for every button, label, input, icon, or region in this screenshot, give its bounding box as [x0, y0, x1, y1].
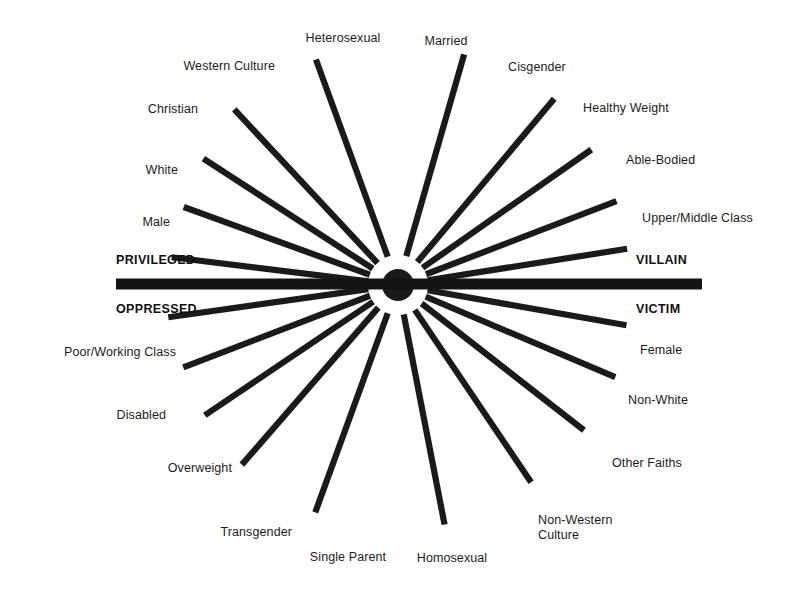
ray-transgender [242, 308, 378, 465]
ray-label-transgender: Transgender [220, 525, 292, 540]
ray-label-western-culture: Western Culture [183, 59, 275, 74]
axis-label-oppressed: OPPRESSED [116, 302, 197, 317]
ray-label-overweight: Overweight [168, 461, 232, 476]
ray-label-heterosexual: Heterosexual [306, 31, 381, 46]
ray-label-white: White [146, 163, 178, 178]
ray-overweight [205, 302, 373, 416]
ray-other-faiths [422, 303, 584, 430]
ray-cisgender [417, 99, 554, 262]
axis-label-victim: VICTIM [636, 302, 680, 317]
ray-label-male: Male [143, 215, 171, 230]
starburst-graphic [0, 0, 800, 593]
ray-western-culture [234, 109, 377, 263]
ray-label-upper-middle-class: Upper/Middle Class [642, 211, 753, 226]
ray-label-cisgender: Cisgender [508, 60, 566, 75]
ray-label-other-faiths: Other Faiths [612, 456, 682, 471]
diagram-canvas: MaleWhiteChristianWestern CultureHeteros… [0, 0, 800, 593]
ray-label-christian: Christian [148, 102, 198, 117]
ray-label-single-parent: Single Parent [310, 550, 386, 565]
ray-heterosexual [316, 59, 388, 256]
horizontal-axis-bar [116, 279, 702, 290]
ray-label-non-white: Non-White [628, 393, 688, 408]
axis-label-villain: VILLAIN [636, 253, 687, 268]
ray-label-female: Female [640, 343, 682, 358]
ray-healthy-weight [423, 150, 592, 268]
ray-poor-working-class [168, 289, 368, 317]
ray-label-able-bodied: Able-Bodied [626, 153, 695, 168]
ray-label-non-western-culture: Non-Western Culture [538, 513, 613, 543]
ray-disabled [183, 296, 370, 368]
ray-label-married: Married [424, 34, 467, 49]
axis-label-privileged: PRIVILEGED [116, 253, 195, 268]
ray-label-healthy-weight: Healthy Weight [583, 101, 669, 116]
ray-label-disabled: Disabled [117, 408, 166, 423]
ray-label-poor-working-class: Poor/Working Class [64, 345, 176, 360]
ray-married [406, 54, 464, 256]
ray-christian [203, 159, 372, 269]
ray-label-homosexual: Homosexual [417, 551, 487, 566]
